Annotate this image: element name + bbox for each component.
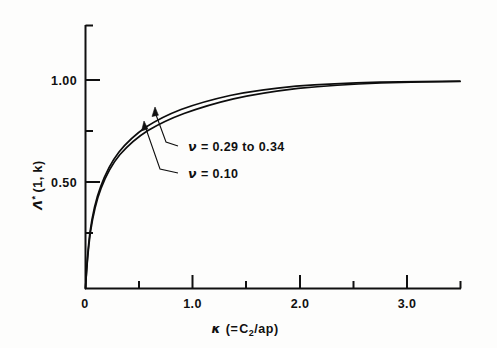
annotation-nu-low: ν= 0.10 [188, 166, 238, 181]
x-axis-title-numerator: C [239, 322, 249, 336]
x-ticklabel-0: 0 [81, 297, 88, 311]
annotation-nu-high-symbol: ν [188, 139, 197, 154]
figure-container: 1.00 0.50 0 1.0 2.0 3.0 Λ*(1, k) κ(=C2/a… [0, 0, 497, 348]
annotation-leaders [142, 107, 178, 173]
annotation-nu-low-value: = 0.10 [201, 167, 239, 181]
y-ticklabel-050: 0.50 [51, 176, 77, 190]
y-axis-title-star: * [30, 195, 40, 199]
annotation-nu-high: ν= 0.29 to 0.34 [188, 139, 285, 154]
y-axis-title: Λ*(1, k) [30, 160, 45, 210]
y-axis-title-arg: (1, k) [31, 160, 45, 192]
x-axis-title-denominator: /ap) [254, 322, 278, 336]
arrowhead-nu-high [152, 107, 158, 117]
annotation-nu-high-value: = 0.29 to 0.34 [201, 140, 285, 154]
svg-text:Λ*(1, k): Λ*(1, k) [30, 160, 45, 210]
y-ticklabel-100: 1.00 [51, 74, 77, 88]
curve-series-0 [86, 81, 461, 288]
y-axis-ticks [86, 26, 101, 234]
annotation-nu-low-symbol: ν [188, 166, 197, 181]
y-axis-title-symbol: Λ [30, 200, 45, 211]
x-axis-title-open: (= [226, 322, 238, 336]
curve-series-1 [86, 82, 461, 289]
leader-line-nu-low [145, 126, 178, 173]
x-ticklabel-30: 3.0 [398, 297, 417, 311]
x-axis-ticks [139, 275, 461, 289]
x-ticklabel-10: 1.0 [183, 297, 202, 311]
x-ticklabel-20: 2.0 [291, 297, 310, 311]
x-axis-title: κ(=C2/ap) [211, 321, 278, 338]
x-axis-title-symbol: κ [211, 321, 220, 336]
chart-canvas: 1.00 0.50 0 1.0 2.0 3.0 Λ*(1, k) κ(=C2/a… [0, 0, 497, 348]
axis-lines [85, 25, 461, 289]
